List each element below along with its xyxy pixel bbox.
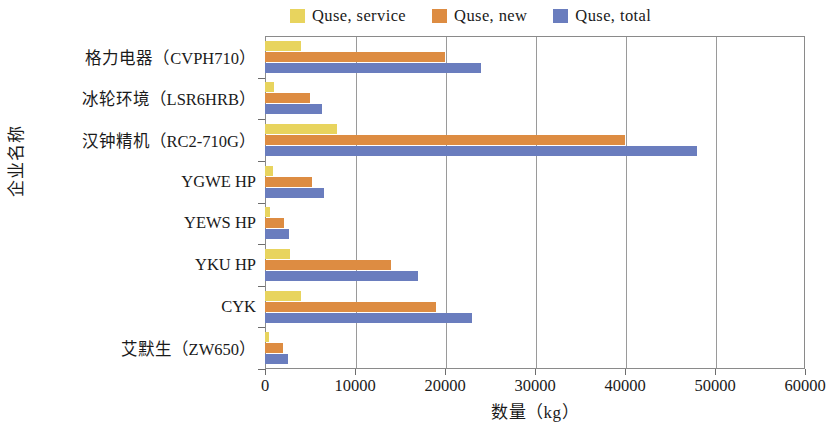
y-axis-category-label: YEWS HP (28, 213, 256, 233)
x-axis-tick (445, 369, 446, 375)
legend-swatch-quse-service (290, 9, 305, 23)
y-axis-title: 企业名称 (2, 101, 27, 221)
y-axis-category-label: 格力电器（CVPH710） (28, 45, 256, 69)
x-axis-labels: 0100002000030000400005000060000 (265, 376, 805, 398)
y-axis-tick (258, 203, 265, 204)
gridline (356, 37, 357, 368)
gridline (446, 37, 447, 368)
chart-legend: Quse, service Quse, new Quse, total (290, 4, 810, 28)
y-axis-tick (258, 119, 265, 120)
x-axis-tick (625, 369, 626, 375)
y-axis-tick (258, 244, 265, 245)
legend-swatch-quse-new (432, 9, 447, 23)
x-axis-tick-label: 30000 (514, 376, 555, 396)
plot-area (265, 36, 805, 369)
x-axis-title: 数量（kg） (265, 398, 805, 423)
x-axis-tick-label: 0 (261, 376, 269, 396)
y-axis-tick (258, 161, 265, 162)
x-axis-tick (355, 369, 356, 375)
y-axis-labels: 格力电器（CVPH710）冰轮环境（LSR6HRB）汉钟精机（RC2-710G）… (28, 36, 256, 369)
x-axis-tick-label: 40000 (604, 376, 645, 396)
legend-label-quse-service: Quse, service (312, 6, 406, 26)
legend-swatch-quse-total (553, 9, 568, 23)
y-axis-category-label: YKU HP (28, 255, 256, 275)
y-axis-category-label: 冰轮环境（LSR6HRB） (28, 86, 256, 110)
y-axis-ticks (258, 36, 266, 369)
y-axis-tick (258, 369, 265, 370)
legend-item-quse-total: Quse, total (553, 6, 651, 26)
y-axis-category-label: 艾默生（ZW650） (28, 336, 256, 360)
x-axis-tick-label: 60000 (784, 376, 825, 396)
legend-item-quse-new: Quse, new (432, 6, 527, 26)
x-axis-tick-label: 10000 (334, 376, 375, 396)
x-axis-tick (715, 369, 716, 375)
gridline (626, 37, 627, 368)
x-axis-tick (265, 369, 266, 375)
gridline (536, 37, 537, 368)
y-axis-tick (258, 78, 265, 79)
y-axis-tick (258, 327, 265, 328)
legend-label-quse-total: Quse, total (575, 6, 651, 26)
y-axis-category-label: CYK (28, 297, 256, 317)
legend-item-quse-service: Quse, service (290, 6, 406, 26)
gridline (716, 37, 717, 368)
x-axis-tick-label: 20000 (424, 376, 465, 396)
x-axis-tick-label: 50000 (694, 376, 735, 396)
y-axis-category-label: YGWE HP (28, 172, 256, 192)
legend-label-quse-new: Quse, new (454, 6, 527, 26)
y-axis-tick (258, 286, 265, 287)
x-axis-tick (805, 369, 806, 375)
y-axis-category-label: 汉钟精机（RC2-710G） (28, 128, 256, 152)
x-axis-tick (535, 369, 536, 375)
